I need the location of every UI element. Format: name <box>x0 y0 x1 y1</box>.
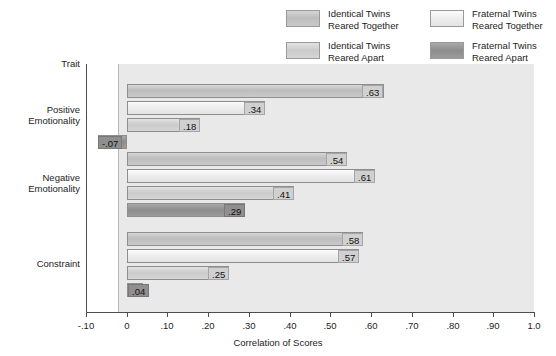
bar-itt-0 <box>127 84 384 98</box>
x-axis-tick-label: .30 <box>242 320 255 331</box>
legend-label-line2: Reared Together <box>472 20 543 31</box>
x-axis-tick-label: .10 <box>160 320 173 331</box>
x-axis-line <box>86 312 534 313</box>
bar-value-label: .57 <box>338 250 359 263</box>
y-axis-category-line1: Constraint <box>0 258 80 270</box>
y-axis-category-label: PositiveEmotionality <box>0 104 80 127</box>
bar-value-label: .29 <box>224 204 245 217</box>
y-axis-category-label: Constraint <box>0 258 80 270</box>
x-axis-tick <box>453 312 454 317</box>
y-axis-category-label: NegativeEmotionality <box>0 172 80 195</box>
x-axis-tick <box>330 312 331 317</box>
chart-legend: Identical Twins Reared Together Fraterna… <box>286 6 552 68</box>
legend-item-label: Identical Twins Reared Together <box>328 8 399 31</box>
y-axis-category-line1: Positive <box>0 104 80 116</box>
legend-item-label: Fraternal Twins Reared Together <box>472 8 543 31</box>
x-axis-tick-label: -.10 <box>78 320 94 331</box>
x-axis-tick-label: .90 <box>486 320 499 331</box>
bar-value-label: .18 <box>179 119 200 132</box>
x-axis-tick <box>534 312 535 317</box>
legend-label-line2: Reared Together <box>328 20 399 31</box>
x-axis-tick <box>290 312 291 317</box>
bar-value-label: .25 <box>208 267 229 280</box>
legend-swatch-icon <box>286 10 320 27</box>
bar-value-label: .34 <box>244 102 265 115</box>
y-axis-category-line2: Emotionality <box>0 115 80 127</box>
legend-label-line1: Fraternal Twins <box>472 8 537 19</box>
legend-label-line1: Fraternal Twins <box>472 40 537 51</box>
legend-swatch-icon <box>430 42 464 59</box>
legend-item-fraternal-reared-together: Fraternal Twins Reared Together <box>430 8 543 31</box>
y-axis-category-line2: Emotionality <box>0 183 80 195</box>
legend-label-line1: Identical Twins <box>328 8 390 19</box>
x-axis-tick-label: .40 <box>283 320 296 331</box>
legend-label-line2: Reared Apart <box>472 52 528 63</box>
bar-itt-2 <box>127 232 363 246</box>
x-axis-tick <box>208 312 209 317</box>
x-axis-tick <box>167 312 168 317</box>
correlation-bar-chart: Identical Twins Reared Together Fraterna… <box>0 0 556 356</box>
legend-label-line1: Identical Twins <box>328 40 390 51</box>
x-axis-tick <box>412 312 413 317</box>
x-axis-tick <box>493 312 494 317</box>
zero-reference-line <box>118 64 119 312</box>
legend-item-label: Fraternal Twins Reared Apart <box>472 40 537 63</box>
x-axis-tick-label: 1.0 <box>527 320 540 331</box>
legend-item-label: Identical Twins Reared Apart <box>328 40 390 63</box>
bar-ita-1 <box>127 186 294 200</box>
x-axis-tick-label: .20 <box>201 320 214 331</box>
y-axis-category-line1: Negative <box>0 172 80 184</box>
legend-swatch-icon <box>286 42 320 59</box>
legend-swatch-icon <box>430 10 464 27</box>
bar-value-label: .61 <box>354 170 375 183</box>
x-axis-tick <box>86 312 87 317</box>
y-axis-header: Trait <box>0 58 80 69</box>
x-axis-tick-label: .60 <box>364 320 377 331</box>
bar-value-label: .58 <box>342 233 363 246</box>
bar-value-label: .04 <box>128 284 149 297</box>
x-axis-tick <box>371 312 372 317</box>
bar-value-label: .63 <box>362 85 383 98</box>
x-axis-tick <box>249 312 250 317</box>
bar-value-label: .54 <box>326 153 347 166</box>
y-axis-line <box>86 64 87 312</box>
bar-itt-1 <box>127 152 347 166</box>
legend-label-line2: Reared Apart <box>328 52 384 63</box>
x-axis-tick-label: .70 <box>405 320 418 331</box>
legend-item-identical-reared-apart: Identical Twins Reared Apart <box>286 40 390 63</box>
legend-item-identical-reared-together: Identical Twins Reared Together <box>286 8 399 31</box>
bar-value-label: .41 <box>273 187 294 200</box>
bar-ftt-1 <box>127 169 375 183</box>
bar-value-label: -.07 <box>98 136 122 149</box>
x-axis-tick-label: 0 <box>124 320 129 331</box>
x-axis-title: Correlation of Scores <box>0 337 556 348</box>
legend-item-fraternal-reared-apart: Fraternal Twins Reared Apart <box>430 40 537 63</box>
x-axis-tick-label: .50 <box>323 320 336 331</box>
x-axis-tick-label: .80 <box>446 320 459 331</box>
bar-ftt-2 <box>127 249 359 263</box>
x-axis-tick <box>127 312 128 317</box>
